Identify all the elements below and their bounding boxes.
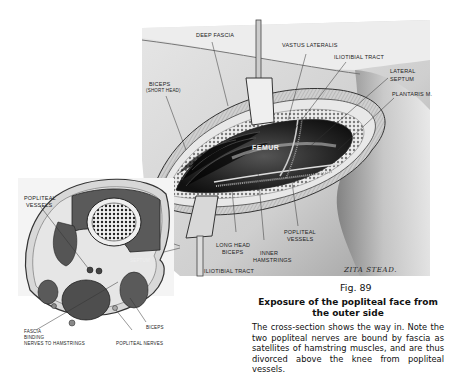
label-lateral-septum-1: Lateral	[390, 68, 415, 74]
label-vastus-lateralis: Vastus lateralis	[282, 42, 338, 48]
label-popliteal-vessels-main-1: Popliteal	[284, 229, 316, 235]
label-popliteal-nerves: Popliteal nerves	[116, 341, 163, 347]
figure-caption-body: The cross-section shows the way in. Note…	[252, 322, 444, 375]
label-iliotibial-tract-top: Iliotibial tract	[334, 54, 384, 60]
label-fascia-3: nerves to hamstrings	[24, 341, 85, 347]
label-inner-hamstrings-1: Inner	[260, 250, 278, 256]
label-popliteal-vessels-main-2: vessels	[287, 236, 313, 242]
figure-number: Fig. 89	[340, 282, 372, 293]
label-iliotibial-tract-bottom: Iliotibial tract	[204, 268, 254, 274]
label-septum: Septum	[130, 258, 150, 264]
figure-title: Exposure of the popliteal face from the …	[252, 297, 444, 319]
label-long-head-biceps-2: biceps	[222, 249, 243, 255]
label-biceps-cs: Biceps	[146, 325, 164, 331]
artist-signature: ZITA STEAD.	[344, 266, 397, 274]
label-deep-fascia: Deep fascia	[196, 32, 234, 38]
label-popliteal-vessels-cs-2: vessels	[26, 202, 52, 208]
label-biceps-short-2: (short head)	[146, 88, 181, 94]
thigh-surgical-view	[142, 20, 430, 276]
label-popliteal-vessels-cs-1: Popliteal	[24, 195, 56, 201]
label-plantaris: Plantaris m.	[392, 91, 432, 97]
label-inner-hamstrings-2: hamstrings	[253, 257, 292, 263]
label-long-head-biceps-1: Long head	[216, 242, 250, 248]
label-femur: FEMUR	[252, 144, 279, 151]
label-biceps-short-1: Biceps	[149, 81, 170, 87]
label-lateral-septum-2: septum	[390, 76, 414, 82]
